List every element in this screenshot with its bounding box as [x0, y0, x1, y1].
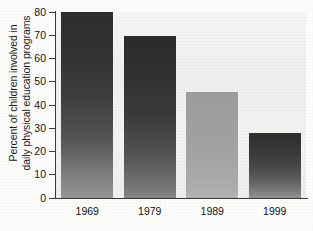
bar-1999 [249, 133, 301, 198]
bar-1969 [61, 12, 113, 198]
y-axis-tick-label: 0 [16, 193, 46, 203]
y-axis-tick-label: 70 [16, 30, 46, 40]
x-axis-label-1989: 1989 [186, 205, 238, 217]
y-axis-line [55, 11, 56, 199]
x-axis-line [55, 198, 308, 199]
y-axis-title-line-2: daily physical education programs [20, 0, 33, 191]
y-axis-title-line-1: Percent of children involved in [7, 0, 20, 191]
bar-chart-figure: Percent of children involved in daily ph… [0, 0, 313, 231]
y-axis-tick-mark [49, 12, 55, 13]
y-axis-tick-mark [49, 81, 55, 82]
y-axis-title: Percent of children involved in daily ph… [7, 0, 37, 191]
y-axis-tick-mark [49, 151, 55, 152]
y-axis-tick-label: 40 [16, 100, 46, 110]
y-axis-tick-mark [49, 174, 55, 175]
x-axis-label-1999: 1999 [249, 205, 301, 217]
x-axis-label-1969: 1969 [61, 205, 113, 217]
y-axis-tick-mark [49, 58, 55, 59]
y-axis-tick-label: 80 [16, 7, 46, 17]
y-axis-tick-label: 30 [16, 123, 46, 133]
bar-1989 [186, 92, 238, 198]
y-axis-tick-label: 50 [16, 76, 46, 86]
y-axis-tick-mark [49, 35, 55, 36]
y-axis-tick-label: 10 [16, 169, 46, 179]
y-axis-tick-label: 60 [16, 53, 46, 63]
x-axis-label-1979: 1979 [124, 205, 176, 217]
y-axis-tick-label: 20 [16, 146, 46, 156]
y-axis-tick-mark [49, 128, 55, 129]
bar-1979 [124, 36, 176, 198]
y-axis-tick-mark [49, 105, 55, 106]
y-axis-tick-mark [49, 198, 55, 199]
